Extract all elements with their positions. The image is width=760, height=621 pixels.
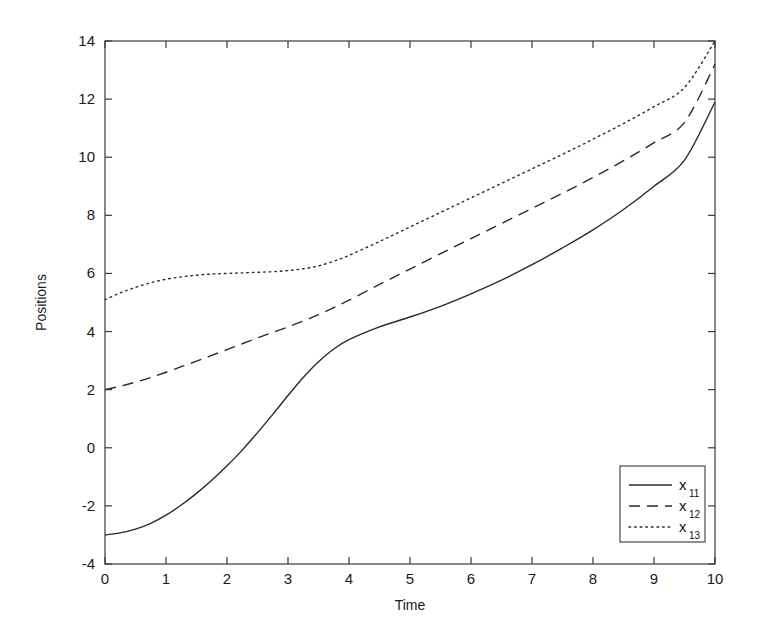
x-tick-label: 2	[223, 570, 231, 587]
y-tick-label: -4	[82, 555, 95, 572]
chart-figure: 012345678910-4-202468101214TimePositions…	[0, 0, 760, 621]
series-line-x_13	[105, 41, 715, 300]
legend-sublabel-11: 11	[689, 488, 700, 499]
y-tick-label: -2	[82, 497, 95, 514]
y-tick-label: 10	[78, 148, 95, 165]
legend-sublabel-13: 13	[689, 530, 701, 541]
y-axis-title: Positions	[33, 274, 49, 331]
x-tick-label: 1	[162, 570, 170, 587]
legend-label-13: x	[679, 518, 687, 535]
y-tick-label: 8	[87, 206, 95, 223]
y-tick-label: 4	[87, 323, 95, 340]
line-chart-plot: 012345678910-4-202468101214TimePositions…	[0, 0, 760, 621]
x-tick-label: 8	[589, 570, 597, 587]
y-tick-label: 14	[78, 32, 95, 49]
x-tick-label: 4	[345, 570, 353, 587]
x-axis-title: Time	[395, 597, 426, 613]
x-tick-label: 7	[528, 570, 536, 587]
legend-label-11: x	[679, 476, 687, 493]
x-tick-label: 5	[406, 570, 414, 587]
y-tick-label: 2	[87, 381, 95, 398]
x-tick-label: 0	[101, 570, 109, 587]
series-line-x_12	[105, 64, 715, 389]
legend-label-12: x	[679, 497, 687, 514]
legend-sublabel-12: 12	[689, 509, 701, 520]
y-tick-label: 12	[78, 90, 95, 107]
x-tick-label: 9	[650, 570, 658, 587]
x-tick-label: 10	[707, 570, 724, 587]
x-tick-label: 3	[284, 570, 292, 587]
y-tick-label: 0	[87, 439, 95, 456]
y-tick-label: 6	[87, 264, 95, 281]
x-tick-label: 6	[467, 570, 475, 587]
